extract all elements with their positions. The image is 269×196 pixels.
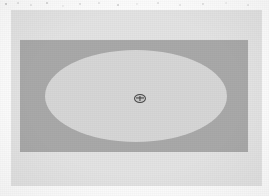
plot-panel (11, 10, 262, 186)
figure-canvas: A light gray rectangular panel containin… (0, 0, 269, 196)
crosshair-plus-icon[interactable] (134, 94, 146, 103)
field-rectangle (20, 40, 248, 152)
marker-cross-glyph (135, 95, 145, 102)
scan-speckle-band (0, 0, 269, 9)
figure-alt-text: A light gray rectangular panel containin… (0, 0, 1, 1)
